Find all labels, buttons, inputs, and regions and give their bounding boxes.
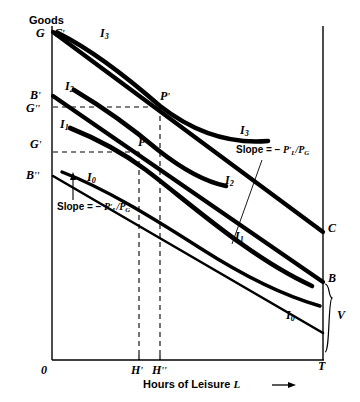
y-label-B-prime: B' (30, 89, 41, 101)
point-label-P: P (138, 136, 145, 148)
y-label-B-double-prime: B'' (26, 169, 39, 181)
curve-label-I0-right: I0 (286, 309, 295, 323)
labour-leisure-diagram: Goods G C' B' G'' G' B'' 0 H' H'' C B V … (0, 0, 360, 402)
right-label-T: T (318, 360, 325, 372)
y-label-G: G (36, 27, 45, 39)
right-label-B: B (328, 272, 336, 284)
slope-note-lower: Slope = – P'L/PG (57, 202, 130, 214)
curve-label-I3-right: I3 (240, 124, 249, 138)
y-axis-title: Goods (29, 15, 64, 26)
x-axis-direction-arrowhead (288, 382, 296, 388)
right-label-C: C (328, 222, 336, 234)
indifference-curve-I3 (58, 33, 268, 142)
point-label-P-prime: P' (160, 90, 170, 102)
curve-label-I0-left: I0 (87, 171, 96, 185)
curve-label-I2-left: I2 (65, 80, 74, 94)
curve-label-I3-left: I3 (100, 27, 109, 41)
x-label-H-prime: H' (131, 364, 143, 376)
curve-label-I2-right: I2 (225, 174, 234, 188)
x-axis-title: Hours of Leisure L (143, 379, 240, 390)
origin-label: 0 (41, 364, 47, 376)
curve-label-I1-right: I1 (235, 230, 244, 244)
y-label-G-prime: G' (30, 138, 41, 150)
y-label-G-double-prime: G'' (26, 102, 40, 114)
y-label-C-prime: C' (54, 27, 65, 39)
right-label-V: V (337, 309, 345, 321)
slope-note-upper: Slope = – P'L/PG (236, 145, 309, 157)
brace-V (325, 284, 332, 352)
x-label-H-double-prime: H'' (152, 364, 167, 376)
diagram-canvas (0, 0, 360, 402)
curve-label-I1-left: I1 (60, 118, 69, 132)
